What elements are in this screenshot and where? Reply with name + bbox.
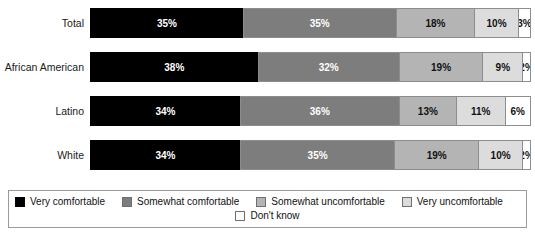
bar-segment: 34% (90, 140, 240, 170)
bar-segment: 19% (399, 52, 483, 82)
bar-segment: 35% (240, 140, 394, 170)
legend-label: Very comfortable (30, 196, 105, 207)
legend-item[interactable]: Don't know (235, 210, 299, 221)
bar-segment-value: 35% (157, 18, 177, 29)
legend-item[interactable]: Somewhat uncomfortable (256, 196, 384, 207)
legend-line-primary: Very comfortableSomewhat comfortableSome… (15, 196, 520, 207)
legend-swatch-icon (402, 197, 412, 207)
row-label: Latino (0, 96, 84, 126)
legend-swatch-icon (122, 197, 132, 207)
bar-segment-value: 6% (511, 106, 525, 117)
legend-label: Very uncomfortable (417, 196, 503, 207)
bar-segment: 2% (522, 52, 531, 82)
bar-segment-value: 34% (155, 150, 175, 161)
bar-segment: 10% (474, 8, 518, 38)
stacked-bar-chart: Total35%35%18%10%3%African American38%32… (0, 0, 535, 242)
row-label: White (0, 140, 84, 170)
row-label: Total (0, 8, 84, 38)
bar-segment-value: 32% (319, 62, 339, 73)
legend-swatch-icon (15, 197, 25, 207)
legend-item[interactable]: Somewhat comfortable (122, 196, 239, 207)
stacked-bar: 34%35%19%10%2% (90, 140, 531, 170)
legend-swatch-icon (256, 197, 266, 207)
bar-segment-value: 19% (431, 62, 451, 73)
bar-segment: 19% (394, 140, 478, 170)
bar-segment-value: 2% (522, 62, 531, 73)
bar-segment: 13% (399, 96, 456, 126)
chart-row: Total35%35%18%10%3% (0, 8, 535, 38)
bar-segment: 32% (258, 52, 399, 82)
legend-label: Don't know (250, 210, 299, 221)
bar-segment-value: 10% (491, 150, 511, 161)
bar-segment-value: 10% (487, 18, 507, 29)
bar-segment: 36% (240, 96, 399, 126)
bar-segment: 6% (505, 96, 531, 126)
bar-segment: 35% (90, 8, 243, 38)
bar-segment: 2% (522, 140, 531, 170)
chart-legend: Very comfortableSomewhat comfortableSome… (8, 190, 527, 228)
stacked-bar: 34%36%13%11%6% (90, 96, 531, 126)
bar-segment-value: 18% (425, 18, 445, 29)
row-label: African American (0, 52, 84, 82)
chart-row: African American38%32%19%9%2% (0, 52, 535, 82)
bar-segment-value: 35% (308, 150, 328, 161)
legend-item[interactable]: Very comfortable (15, 196, 105, 207)
bar-segment: 10% (478, 140, 522, 170)
bar-segment-value: 9% (496, 62, 510, 73)
stacked-bar: 35%35%18%10%3% (90, 8, 531, 38)
stacked-bar: 38%32%19%9%2% (90, 52, 531, 82)
bar-segment-value: 38% (164, 62, 184, 73)
bar-segment-value: 19% (427, 150, 447, 161)
legend-label: Somewhat comfortable (137, 196, 239, 207)
truncated-header-remnant (44, 0, 364, 3)
chart-row: White34%35%19%10%2% (0, 140, 535, 170)
bar-segment: 9% (482, 52, 522, 82)
legend-item[interactable]: Very uncomfortable (402, 196, 503, 207)
bar-segment-value: 13% (418, 106, 438, 117)
legend-line-secondary: Don't know (15, 210, 520, 221)
bar-segment: 3% (518, 8, 531, 38)
bar-segment: 18% (396, 8, 475, 38)
bar-segment: 34% (90, 96, 240, 126)
chart-plot-area: Total35%35%18%10%3%African American38%32… (0, 8, 535, 184)
bar-segment-value: 3% (518, 18, 531, 29)
bar-segment: 38% (90, 52, 258, 82)
bar-segment-value: 36% (310, 106, 330, 117)
legend-swatch-icon (235, 211, 245, 221)
bar-segment-value: 2% (522, 150, 531, 161)
bar-segment: 11% (456, 96, 505, 126)
bar-segment: 35% (243, 8, 396, 38)
chart-row: Latino34%36%13%11%6% (0, 96, 535, 126)
bar-segment-value: 34% (155, 106, 175, 117)
bar-segment-value: 35% (310, 18, 330, 29)
legend-label: Somewhat uncomfortable (271, 196, 384, 207)
bar-segment-value: 11% (471, 106, 490, 117)
